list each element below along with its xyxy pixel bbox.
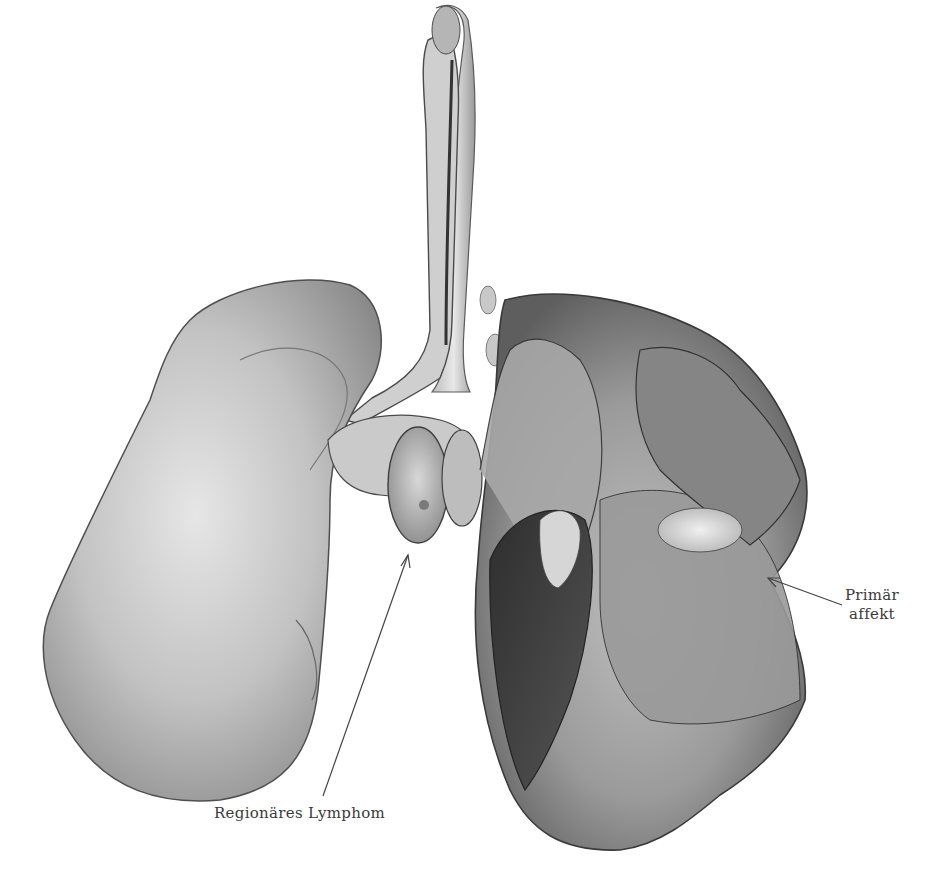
right-lung xyxy=(475,294,807,850)
regional-lymphoma-label: Regionäres Lymphom xyxy=(214,804,385,823)
left-lung xyxy=(43,280,381,801)
lymph-pointer-line xyxy=(323,555,408,796)
primary-affect-label-line2: affekt xyxy=(832,605,912,624)
regional-lymph-nodes xyxy=(328,415,482,543)
lung-illustration xyxy=(0,0,945,875)
primary-affect-label-line1: Primär xyxy=(832,586,912,605)
primary-affect-label: Primär affekt xyxy=(832,586,912,624)
primary-focus xyxy=(658,508,742,552)
